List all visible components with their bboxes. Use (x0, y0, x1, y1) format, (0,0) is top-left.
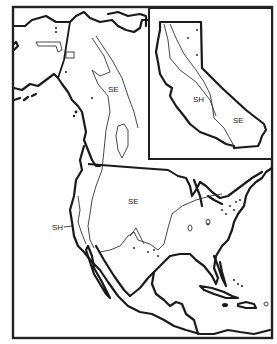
island (75, 111, 78, 114)
label-se-inset: SE (233, 116, 244, 125)
label-sh-west: SH (52, 223, 63, 232)
hispaniola (238, 302, 256, 308)
label-sh-inset: SH (193, 95, 204, 104)
alaska-west-coast (14, 42, 100, 166)
map-figure: SE SE SH SH SE (0, 0, 277, 344)
mexico-east (152, 272, 198, 334)
inset-dot (187, 37, 189, 39)
jamaica (222, 303, 228, 307)
baja-california (86, 246, 110, 298)
canada-zone-line (92, 38, 110, 170)
island (55, 27, 57, 29)
alaska-inlet (36, 42, 62, 52)
sh-leader-line (64, 226, 72, 227)
label-se-main: SE (128, 197, 139, 206)
puerto-rico (264, 302, 268, 306)
island (91, 97, 93, 99)
eastern-dots (133, 199, 241, 257)
canada-zone-line-2 (96, 36, 138, 128)
alaska-lake (66, 52, 74, 58)
alaska-border (58, 22, 70, 78)
island (73, 115, 75, 117)
cuba (200, 286, 238, 298)
label-se-north: SE (108, 85, 119, 94)
us-west-zone-line (88, 170, 102, 248)
canada-us-border (88, 164, 178, 176)
aleutian-islands (14, 94, 36, 100)
canada-lake-zone (116, 124, 128, 158)
inset-dot (196, 29, 198, 31)
bahamas-islands (233, 279, 243, 287)
island (55, 31, 57, 33)
sh-coastal-zone (78, 196, 86, 244)
us-south-zone (100, 194, 222, 252)
zone-pocket (188, 225, 192, 231)
inset-dot (196, 54, 198, 56)
island (65, 71, 67, 73)
